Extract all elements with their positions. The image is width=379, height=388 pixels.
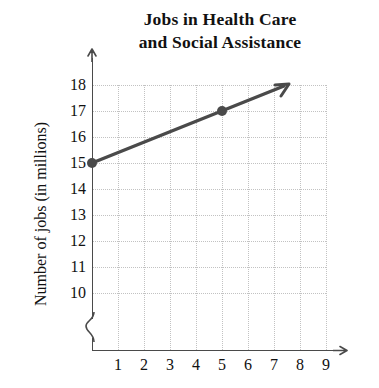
chart-figure: Jobs in Health Care and Social Assistanc… [0, 0, 379, 388]
data-series-line [0, 0, 379, 388]
trend-line [92, 86, 284, 163]
data-point-5-17 [217, 106, 227, 116]
data-point-0-15 [87, 158, 97, 168]
